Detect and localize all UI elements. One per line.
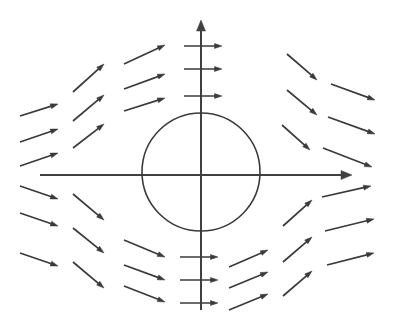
- flow-arrow-lr-c2-r1-head: [363, 185, 371, 190]
- flow-arrow-lr-c1-r3: [283, 271, 312, 296]
- flow-arrow-lr-c2-r3-shaft: [327, 254, 369, 265]
- flow-arrow-lr-c1-r3-shaft: [283, 275, 308, 296]
- flow-arrow-ll-c1-r1-head: [50, 194, 58, 199]
- flow-arrow-ur-c2-r2-head: [367, 129, 375, 134]
- flow-arrow-axis-top-r3-head: [215, 94, 223, 99]
- x-axis: [40, 171, 352, 180]
- flow-arrow-axis-top-r2-head: [215, 67, 223, 72]
- flow-arrow-ll-c1-r3-head: [50, 261, 58, 266]
- flow-arrows-layer: [20, 44, 375, 311]
- flow-arrow-axis-bot-r1: [180, 255, 218, 260]
- flow-arrow-axis-bot-r2: [180, 278, 218, 283]
- flow-arrow-ll-c3-r3-shaft: [124, 286, 160, 300]
- flow-arrow-axis-top-r1-head: [215, 44, 223, 49]
- flow-arrow-ul-c3-r2-shaft: [124, 76, 160, 89]
- flow-arrow-ll-c3-r1-shaft: [124, 240, 160, 255]
- flow-arrow-axis-bot-r3: [180, 301, 218, 306]
- flow-arrow-ul-c1-r1-head: [50, 104, 58, 109]
- flow-arrow-ll-c2-r2: [73, 228, 104, 253]
- flow-arrow-ul-c3-r2-head: [157, 74, 165, 79]
- flow-arrow-lr-c3-r1-shaft: [229, 252, 263, 267]
- flow-arrow-ul-c1-r1: [20, 104, 58, 116]
- flow-arrow-ul-c1-r1-shaft: [20, 106, 53, 116]
- flow-arrow-ul-c3-r3: [124, 98, 165, 111]
- flow-arrow-ul-c3-r1-head: [157, 45, 165, 50]
- flow-arrow-ul-c2-r1: [73, 64, 104, 92]
- flow-arrow-ll-c1-r2-shaft: [20, 213, 53, 224]
- flow-arrow-ll-c3-r1-head: [157, 252, 165, 257]
- flow-arrow-ul-c3-r2: [124, 74, 165, 89]
- flow-arrow-ll-c2-r3: [73, 262, 104, 288]
- flow-arrow-lr-c1-r2: [283, 237, 312, 262]
- flow-arrow-lr-c2-r1: [322, 185, 371, 197]
- flow-arrow-ll-c1-r2: [20, 213, 58, 226]
- flow-arrow-lr-c2-r2: [325, 218, 374, 231]
- flow-arrow-ul-c1-r3: [20, 153, 58, 166]
- flow-arrow-ll-c2-r1-shaft: [73, 194, 100, 217]
- vector-field-figure: [0, 0, 393, 323]
- flow-arrow-ll-c3-r3: [124, 286, 165, 302]
- flow-arrow-ll-c1-r1: [20, 186, 58, 199]
- flow-arrow-ul-c3-r3-shaft: [124, 100, 160, 111]
- flow-arrow-lr-c3-r3: [229, 294, 268, 310]
- flow-arrow-lr-c1-r1-shaft: [283, 204, 308, 226]
- flow-arrow-ul-c2-r3-shaft: [73, 127, 100, 148]
- flow-arrow-lr-c3-r2-shaft: [229, 274, 263, 288]
- flow-arrow-lr-c3-r2-head: [260, 272, 268, 277]
- flow-arrow-lr-c3-r2: [229, 272, 268, 288]
- flow-arrow-lr-c1-r1: [283, 200, 312, 226]
- flow-arrow-ll-c2-r3-shaft: [73, 262, 100, 285]
- flow-arrow-ul-c2-r2-shaft: [73, 98, 100, 121]
- flow-arrow-ur-c2-r1-head: [367, 95, 375, 100]
- flow-arrow-ur-c2-r3-head: [364, 162, 372, 167]
- y-axis: [197, 20, 206, 310]
- flow-arrow-lr-c2-r3-head: [366, 252, 374, 257]
- flow-arrow-ur-c2-r2: [328, 117, 375, 134]
- flow-arrow-ur-c1-r2: [287, 90, 317, 115]
- flow-arrow-ul-c3-r1-shaft: [124, 47, 160, 64]
- flow-arrow-axis-top-r3: [184, 94, 222, 99]
- flow-arrow-ll-c2-r1: [73, 194, 104, 220]
- flow-arrow-ul-c1-r3-shaft: [20, 155, 53, 166]
- axes-layer: [40, 20, 352, 310]
- flow-arrow-ul-c1-r2-shaft: [20, 131, 53, 142]
- flow-arrow-ur-c1-r1-shaft: [287, 54, 313, 76]
- flow-arrow-axis-bot-r1-head: [211, 255, 219, 260]
- flow-arrow-ll-c1-r1-shaft: [20, 186, 53, 197]
- flow-arrow-ur-c1-r2-shaft: [287, 90, 313, 112]
- flow-arrow-ll-c1-r2-head: [50, 221, 58, 226]
- flow-arrow-ul-c2-r3: [73, 124, 104, 148]
- flow-arrow-lr-c2-r3: [327, 252, 374, 265]
- flow-arrow-ul-c1-r2-head: [50, 129, 58, 134]
- flow-arrow-ll-c1-r3-shaft: [20, 253, 53, 264]
- y-axis-head: [197, 20, 206, 31]
- flow-arrow-lr-c2-r1-shaft: [322, 187, 366, 197]
- flow-arrow-ul-c3-r3-head: [157, 98, 165, 103]
- flow-arrow-ll-c3-r2-shaft: [124, 265, 160, 278]
- flow-arrow-ur-c2-r1-shaft: [331, 84, 370, 98]
- flow-arrow-lr-c2-r2-shaft: [325, 220, 369, 231]
- flow-arrow-ll-c3-r2-head: [157, 275, 165, 280]
- flow-arrow-ll-c1-r3: [20, 253, 58, 266]
- flow-arrow-ur-c2-r3-shaft: [323, 148, 367, 165]
- flow-arrow-ur-c1-r1: [287, 54, 317, 80]
- vector-field-canvas: [0, 0, 393, 323]
- flow-arrow-lr-c1-r2-shaft: [283, 241, 308, 262]
- flow-arrow-ur-c2-r3: [323, 148, 372, 167]
- flow-arrow-lr-c3-r3-head: [260, 294, 268, 299]
- flow-arrow-ur-c2-r2-shaft: [328, 117, 370, 132]
- flow-arrow-ur-c2-r1: [331, 84, 375, 100]
- flow-arrow-axis-bot-r3-head: [211, 301, 219, 306]
- flow-arrow-lr-c3-r1: [229, 250, 268, 267]
- flow-arrow-ul-c1-r2: [20, 129, 58, 142]
- flow-arrow-ll-c3-r1: [124, 240, 165, 257]
- flow-arrow-ll-c2-r2-shaft: [73, 228, 100, 250]
- flow-arrow-ll-c3-r3-head: [157, 297, 165, 302]
- flow-arrow-ur-c1-r3-shaft: [282, 125, 306, 146]
- flow-arrow-lr-c3-r1-head: [260, 250, 268, 255]
- flow-arrow-ll-c3-r2: [124, 265, 165, 280]
- flow-arrow-axis-bot-r2-head: [211, 278, 219, 283]
- flow-arrow-lr-c3-r3-shaft: [229, 296, 263, 310]
- flow-arrow-ul-c3-r1: [124, 45, 165, 64]
- flow-arrow-ul-c2-r2: [73, 95, 104, 121]
